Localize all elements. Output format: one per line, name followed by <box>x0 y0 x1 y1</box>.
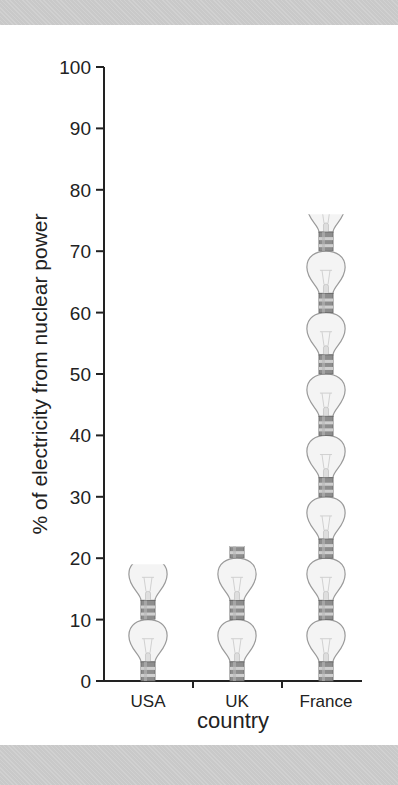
y-tick-label: 80 <box>70 180 91 201</box>
light-bulb-icon <box>307 374 345 435</box>
pictogram-chart: 0102030405060708090100 USAUKFrance % of … <box>0 0 398 785</box>
light-bulb-icon <box>218 558 256 619</box>
y-tick-label: 10 <box>70 610 91 631</box>
bars <box>129 190 345 681</box>
y-tick-label: 0 <box>80 671 91 692</box>
x-tick-label: USA <box>131 692 167 711</box>
x-tick-label: France <box>300 692 353 711</box>
light-bulb-icon <box>307 251 345 312</box>
x-axis: USAUKFrance <box>103 681 362 711</box>
y-tick-label: 30 <box>70 487 91 508</box>
y-axis: 0102030405060708090100 <box>59 57 104 692</box>
y-tick-label: 50 <box>70 364 91 385</box>
light-bulb-icon <box>307 620 345 681</box>
bar-uk <box>218 497 256 681</box>
y-tick-label: 90 <box>70 118 91 139</box>
light-bulb-icon <box>307 435 345 496</box>
y-tick-label: 40 <box>70 425 91 446</box>
light-bulb-icon <box>307 497 345 558</box>
y-tick-label: 60 <box>70 303 91 324</box>
bar-france <box>307 190 345 681</box>
y-axis-label: % of electricity from nuclear power <box>28 214 51 535</box>
x-axis-label: country <box>197 708 269 733</box>
light-bulb-icon <box>307 558 345 619</box>
y-tick-label: 70 <box>70 241 91 262</box>
light-bulb-icon <box>218 620 256 681</box>
bar-usa <box>129 558 167 681</box>
light-bulb-icon <box>218 497 256 558</box>
light-bulb-icon <box>129 620 167 681</box>
light-bulb-icon <box>129 558 167 619</box>
y-tick-label: 100 <box>59 57 91 78</box>
light-bulb-icon <box>307 190 345 251</box>
light-bulb-icon <box>307 313 345 374</box>
y-tick-label: 20 <box>70 548 91 569</box>
